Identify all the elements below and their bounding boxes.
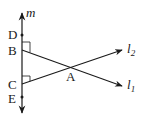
- label-a: A: [66, 69, 76, 84]
- label-l2: l2: [127, 41, 136, 58]
- label-m: m: [26, 5, 35, 20]
- label-d: D: [8, 27, 17, 42]
- geometry-diagram: m D B C E A l2 l1: [0, 0, 141, 117]
- label-b: B: [8, 43, 17, 58]
- label-e: E: [8, 91, 16, 106]
- point-d-dot: [21, 34, 24, 37]
- point-e-dot: [21, 96, 24, 99]
- right-angle-mark-c: [22, 76, 30, 82]
- label-l1: l1: [127, 77, 135, 94]
- label-c: C: [8, 77, 17, 92]
